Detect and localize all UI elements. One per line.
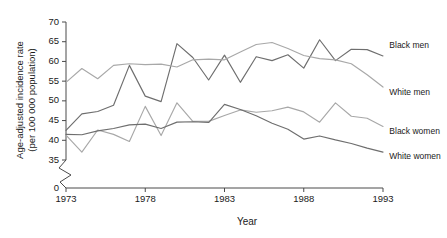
y-tick-label: 70 [48, 16, 59, 27]
y-tick-label: 45 [48, 114, 59, 125]
x-tick-label: 1993 [372, 193, 393, 204]
series-line-black-men [66, 40, 383, 131]
y-tick-label: 35 [48, 154, 59, 165]
series-labels-group: Black menWhite menBlack womenWhite women [389, 40, 441, 161]
x-tick-label: 1983 [214, 193, 235, 204]
series-label-white-women: White women [389, 151, 441, 161]
y-axis-title-line2: (per 100 000 population) [26, 48, 37, 152]
x-axis: 19731978198319881993 [55, 188, 393, 204]
line-chart: 35404550556065700 19731978198319881993 B… [0, 0, 447, 238]
series-label-white-men: White men [389, 87, 430, 97]
series-line-black-women [66, 103, 383, 152]
y-tick-label: 50 [48, 94, 59, 105]
y-tick-label: 55 [48, 75, 59, 86]
y-tick-label: 65 [48, 35, 59, 46]
y-axis-title-line1: Age-adjusted incidence rate [14, 41, 25, 159]
y-tick-label: 40 [48, 134, 59, 145]
y-origin-label: 0 [54, 182, 59, 193]
y-axis: 35404550556065700 [48, 16, 71, 193]
x-tick-label: 1978 [135, 193, 156, 204]
chart-figure: 35404550556065700 19731978198319881993 B… [0, 0, 447, 238]
series-label-black-women: Black women [389, 126, 440, 136]
x-tick-label: 1988 [293, 193, 314, 204]
x-axis-title: Year [237, 216, 258, 227]
series-label-black-men: Black men [389, 40, 429, 50]
x-tick-label: 1973 [55, 193, 76, 204]
data-series-group [66, 40, 383, 152]
series-line-white-men [66, 43, 383, 88]
series-line-white-women [66, 104, 383, 152]
y-tick-label: 60 [48, 55, 59, 66]
